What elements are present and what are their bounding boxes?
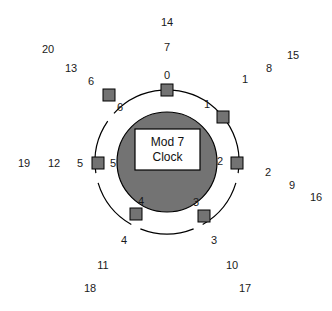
congruent-value-label: 17 [239,283,251,294]
congruent-value-label: 4 [121,235,127,246]
clock-position-marker[interactable] [198,210,210,222]
congruent-value-label: 7 [164,42,170,53]
congruent-value-label: 6 [88,76,94,87]
congruent-value-label: 14 [161,17,173,28]
congruent-value-label: 3 [211,235,217,246]
clock-position-marker[interactable] [217,111,229,123]
ring-arc-segment [172,90,220,113]
mod-7-clock-figure: Mod 7 Clock 0714118152291633101744111855… [0,0,332,311]
clock-position-marker[interactable] [231,157,243,169]
congruent-value-label: 2 [265,167,271,178]
residue-label-inner: 0 [164,70,170,81]
residue-label-inner: 5 [110,158,116,169]
center-caption: Mod 7 Clock [151,135,184,165]
clock-position-marker[interactable] [130,208,142,220]
congruent-value-label: 12 [48,158,60,169]
clock-position-marker[interactable] [103,89,115,101]
residue-label-inner: 6 [117,102,123,113]
congruent-value-label: 8 [266,63,272,74]
congruent-value-label: 20 [42,44,54,55]
ring-arc-segment [140,229,193,234]
residue-label-inner: 1 [204,99,210,110]
center-caption-line-1: Mod 7 [151,135,184,150]
congruent-value-label: 5 [77,158,83,169]
residue-label-inner: 2 [217,156,223,167]
congruent-value-label: 10 [226,260,238,271]
residue-label-inner: 3 [193,197,199,208]
congruent-value-label: 15 [287,50,299,61]
congruent-value-label: 1 [242,74,248,85]
congruent-value-label: 11 [97,260,108,271]
clock-position-marker[interactable] [92,157,104,169]
clock-position-marker[interactable] [161,84,173,96]
residue-label-inner: 4 [138,196,144,207]
congruent-value-label: 13 [65,63,77,74]
congruent-value-label: 19 [18,158,30,169]
congruent-value-label: 16 [310,192,322,203]
congruent-value-label: 18 [84,283,96,294]
congruent-value-label: 9 [289,180,295,191]
center-caption-line-2: Clock [151,150,184,165]
